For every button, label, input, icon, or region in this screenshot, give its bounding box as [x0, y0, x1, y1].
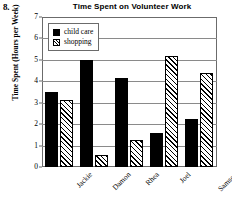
- y-tick-label: 3: [34, 99, 38, 107]
- x-tick-label-4: Samson: [216, 170, 232, 193]
- y-tick-label: 4: [34, 78, 38, 86]
- y-axis-label: Time Spent (Hours per Week): [11, 0, 20, 113]
- legend-item-child-care: child care: [53, 27, 93, 37]
- bar-shopping[interactable]: [165, 56, 178, 167]
- legend-label-shopping: shopping: [64, 38, 92, 46]
- x-tick-label-0: Jackie: [74, 170, 94, 190]
- bar-child-care[interactable]: [150, 133, 163, 167]
- chart-title: Time Spent on Volunteer Work: [36, 2, 228, 11]
- y-tick-label: 5: [34, 56, 38, 64]
- bar-child-care[interactable]: [115, 78, 128, 167]
- bar-child-care[interactable]: [185, 119, 198, 167]
- bar-shopping[interactable]: [60, 100, 73, 168]
- y-tick-label: 6: [34, 35, 38, 43]
- y-tick-label: 2: [34, 120, 38, 128]
- problem-number: 8.: [3, 2, 9, 12]
- legend-swatch-shopping-icon: [53, 39, 60, 46]
- legend-label-child-care: child care: [64, 28, 93, 36]
- bar-shopping[interactable]: [95, 155, 108, 167]
- bar-group: [147, 17, 182, 167]
- chart-figure: 8. Time Spent on Volunteer Work Time Spe…: [0, 0, 232, 205]
- bar-child-care[interactable]: [80, 60, 93, 167]
- bar-group: [182, 17, 217, 167]
- bar-group: [112, 17, 147, 167]
- legend-swatch-child-care-icon: [53, 29, 60, 36]
- y-tick-label: 7: [34, 13, 38, 21]
- legend: child care shopping: [48, 23, 99, 51]
- x-tick-label-3: Joel: [178, 170, 193, 185]
- y-tick-label: 1: [34, 142, 38, 150]
- y-tick-label: 0: [34, 163, 38, 171]
- x-tick-label-1: Damon: [110, 170, 132, 192]
- x-tick-label-2: Rhea: [144, 170, 161, 187]
- bar-shopping[interactable]: [200, 73, 213, 167]
- legend-item-shopping: shopping: [53, 37, 93, 47]
- bar-shopping[interactable]: [130, 140, 143, 167]
- bar-child-care[interactable]: [45, 92, 58, 167]
